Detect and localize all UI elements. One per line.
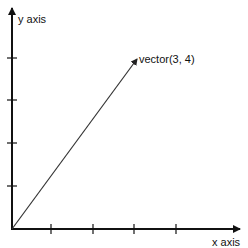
vector-arrow [12, 59, 137, 229]
y-axis-label: y axis [18, 13, 46, 25]
vector-diagram [0, 0, 248, 248]
vector-label: vector(3, 4) [139, 53, 195, 65]
x-axis-label: x axis [212, 236, 240, 248]
